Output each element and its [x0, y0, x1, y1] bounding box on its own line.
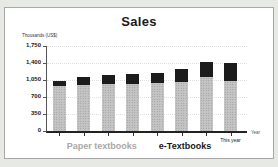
x-axis-label: Year	[251, 130, 260, 135]
stacked-bar	[175, 69, 188, 131]
x-axis-tick	[231, 133, 232, 136]
y-axis-unit-label: Thousands (US$)	[22, 33, 57, 38]
x-axis-tick	[84, 133, 85, 136]
legend-e-textbooks: e-Textbooks	[159, 141, 211, 151]
bar-segment-e-textbooks	[224, 63, 237, 82]
bar-segment-paper-textbooks	[53, 86, 66, 131]
bar-segment-paper-textbooks	[175, 82, 188, 131]
x-axis-tick	[206, 133, 207, 136]
y-tick-label: 1,050	[11, 76, 41, 82]
bar-segment-e-textbooks	[77, 77, 90, 85]
gridline	[47, 63, 247, 64]
y-tick-label: 1,400	[11, 59, 41, 65]
y-axis-tick	[43, 46, 46, 47]
bar-segment-e-textbooks	[102, 75, 115, 84]
y-axis-tick	[43, 131, 46, 132]
legend-paper-textbooks: Paper textbooks	[67, 141, 137, 151]
bar-segment-paper-textbooks	[151, 83, 164, 131]
bar-segment-e-textbooks	[200, 62, 213, 78]
bar-segment-e-textbooks	[151, 73, 164, 84]
stacked-bar	[102, 75, 115, 131]
stacked-bar	[200, 62, 213, 131]
x-axis-tick	[108, 133, 109, 136]
x-axis-tick	[59, 133, 60, 136]
plot-area: Year This year 1,7501,4001,0507003500	[46, 46, 247, 133]
bar-segment-paper-textbooks	[126, 84, 139, 131]
bar-segment-e-textbooks	[126, 74, 139, 83]
bar-segment-paper-textbooks	[102, 84, 115, 131]
bar-segment-paper-textbooks	[77, 85, 90, 131]
bar-segment-e-textbooks	[175, 69, 188, 82]
chart-title: Sales	[5, 8, 273, 29]
y-axis-tick	[43, 97, 46, 98]
chart-panel: Sales Thousands (US$) Year This year 1,7…	[4, 7, 274, 159]
stacked-bar	[53, 81, 66, 131]
y-tick-label: 350	[11, 110, 41, 116]
y-tick-label: 0	[11, 127, 41, 133]
y-axis-tick	[43, 63, 46, 64]
stacked-bar	[77, 77, 90, 131]
y-axis-tick	[43, 80, 46, 81]
bar-segment-paper-textbooks	[224, 81, 237, 131]
gridline	[47, 46, 247, 47]
chart-legend: Paper textbooks e-Textbooks	[5, 141, 273, 151]
y-axis-tick	[43, 114, 46, 115]
stacked-bar	[151, 73, 164, 131]
x-axis-tick	[182, 133, 183, 136]
y-tick-label: 700	[11, 93, 41, 99]
bar-segment-paper-textbooks	[200, 77, 213, 131]
screenshot-root: { "window": { "background": "#e7e9e5", "…	[0, 0, 278, 167]
y-tick-label: 1,750	[11, 42, 41, 48]
x-axis-tick	[157, 133, 158, 136]
stacked-bar	[224, 63, 237, 131]
stacked-bar	[126, 74, 139, 131]
x-axis-tick	[133, 133, 134, 136]
